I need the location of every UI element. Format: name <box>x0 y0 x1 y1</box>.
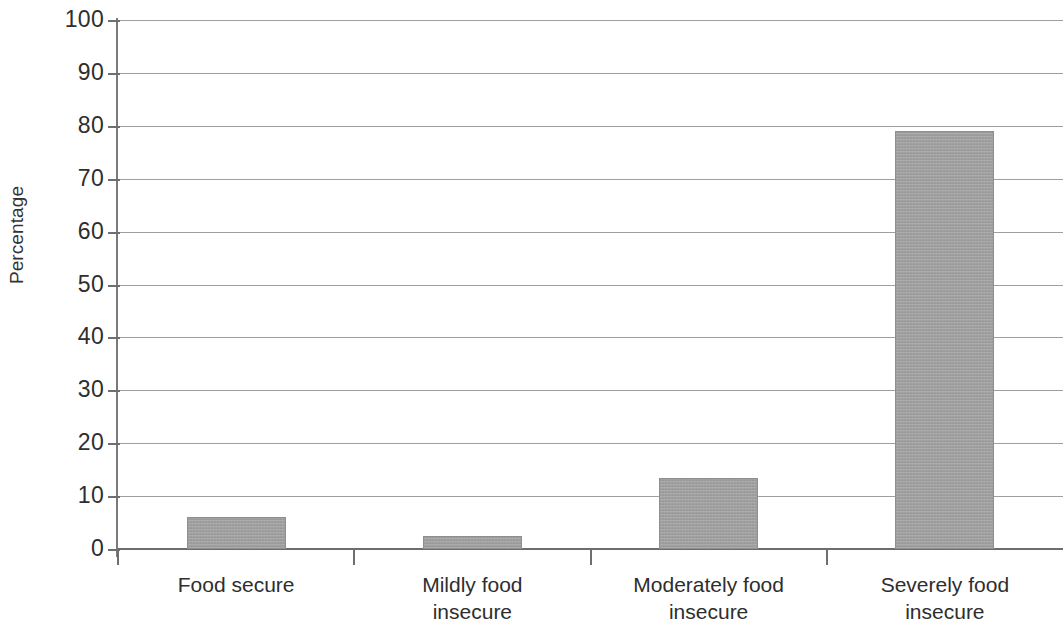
x-axis-tick-label: Severely food insecure <box>795 571 1063 621</box>
x-axis-tick-mark <box>826 550 828 565</box>
x-axis-tick-mark <box>353 550 355 565</box>
x-axis-tick-labels: Food secureMildly food insecureModeratel… <box>0 0 1063 621</box>
x-axis-tick-mark <box>117 550 119 565</box>
x-axis-tick-mark <box>590 550 592 565</box>
bar-chart-figure: Percentage 1009080706050403020100 Food s… <box>0 0 1063 621</box>
